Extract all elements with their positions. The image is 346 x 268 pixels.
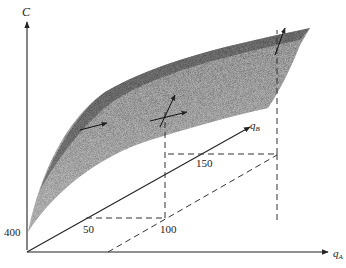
tick-label-150: 150	[196, 158, 213, 169]
c-axis-label: C	[22, 6, 30, 18]
cost-surface	[28, 28, 310, 232]
qa-axis-label: qA	[333, 248, 343, 261]
qa-label-subscript: A	[339, 253, 343, 261]
tick-label-50: 50	[83, 224, 94, 235]
qb-axis-label: qB	[250, 120, 260, 133]
tick-label-100: 100	[160, 224, 177, 235]
qb-label-subscript: B	[256, 125, 260, 133]
tick-label-400: 400	[4, 227, 21, 238]
